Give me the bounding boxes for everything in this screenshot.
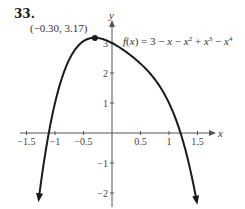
- x-axis-arrow-icon: [209, 130, 216, 136]
- function-curve: [39, 38, 196, 200]
- problem-number: 33.: [14, 7, 35, 21]
- y-tick-label: −2: [97, 188, 108, 199]
- y-axis-arrow-icon: [109, 20, 115, 27]
- local-max-point: [92, 35, 98, 41]
- y-tick-label: −1: [97, 158, 108, 169]
- x-tick-label: −1.5: [17, 136, 35, 147]
- function-graph: 33. x y −1.5−1−0.50.511.5 −2−1123 (−0.30…: [0, 0, 245, 209]
- function-label: f(x) = 3 − x − x2 + x3 − x4: [123, 35, 233, 48]
- y-axis-label: y: [108, 9, 114, 21]
- y-tick-label: 1: [103, 98, 108, 109]
- x-tick-label: −0.5: [74, 136, 92, 147]
- x-tick-label: 1.5: [191, 136, 204, 147]
- local-max-label: (−0.30, 3.17): [30, 22, 88, 35]
- x-tick-label: 0.5: [134, 136, 147, 147]
- x-tick-label: −1: [50, 136, 61, 147]
- x-tick-label: 1: [167, 136, 172, 147]
- x-axis-label: x: [217, 127, 223, 139]
- y-tick-label: 2: [103, 68, 108, 79]
- curve-arrow-right-icon: [192, 195, 199, 205]
- curve-arrow-left-icon: [36, 193, 43, 202]
